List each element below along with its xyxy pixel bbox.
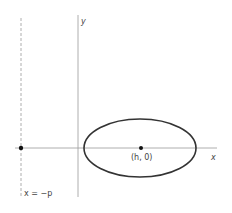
directrix-point (19, 146, 23, 150)
ellipse-diagram: y x (h, 0) x = −p (0, 0, 232, 213)
center-point (139, 146, 143, 150)
y-axis-label: y (80, 17, 86, 26)
directrix-label: x = −p (24, 189, 52, 198)
x-axis-label: x (210, 153, 216, 162)
center-label: (h, 0) (131, 153, 153, 162)
